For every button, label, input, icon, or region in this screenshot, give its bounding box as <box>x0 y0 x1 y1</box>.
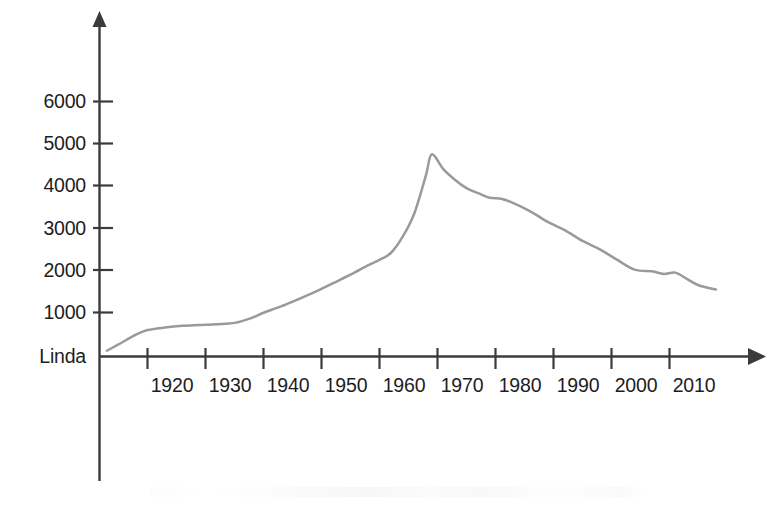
x-tick-label: 1920 <box>151 374 194 396</box>
x-tick-label: 1970 <box>441 374 484 396</box>
chart-container: 6000 5000 4000 3000 2000 1000 Linda 1920… <box>0 0 781 519</box>
horizontal-axis <box>100 348 767 365</box>
y-tick-label: 1000 <box>43 301 86 323</box>
y-tick-label: 4000 <box>43 174 86 196</box>
y-tick-label: 6000 <box>43 90 86 112</box>
up-arrow-icon <box>93 11 107 27</box>
x-tick-label: 1950 <box>325 374 368 396</box>
line-chart: 6000 5000 4000 3000 2000 1000 Linda 1920… <box>0 0 781 519</box>
y-axis-ticks <box>93 102 113 313</box>
x-axis-ticks <box>148 348 670 369</box>
y-tick-label: 2000 <box>43 259 86 281</box>
data-series-line <box>107 154 716 351</box>
y-tick-label: 5000 <box>43 132 86 154</box>
x-tick-label: 1980 <box>499 374 542 396</box>
y-tick-label: 3000 <box>43 217 86 239</box>
y-axis-labels: 6000 5000 4000 3000 2000 1000 <box>43 90 86 323</box>
x-tick-label: 1930 <box>209 374 252 396</box>
vertical-axis <box>93 11 107 481</box>
x-tick-label: 2010 <box>673 374 716 396</box>
origin-series-label: Linda <box>39 345 86 367</box>
x-tick-label: 1940 <box>267 374 310 396</box>
x-tick-label: 1960 <box>383 374 426 396</box>
x-tick-label: 1990 <box>557 374 600 396</box>
right-arrow-icon <box>748 348 766 365</box>
x-axis-labels: 1920 1930 1940 1950 1960 1970 1980 1990 … <box>151 374 716 396</box>
x-tick-label: 2000 <box>615 374 658 396</box>
